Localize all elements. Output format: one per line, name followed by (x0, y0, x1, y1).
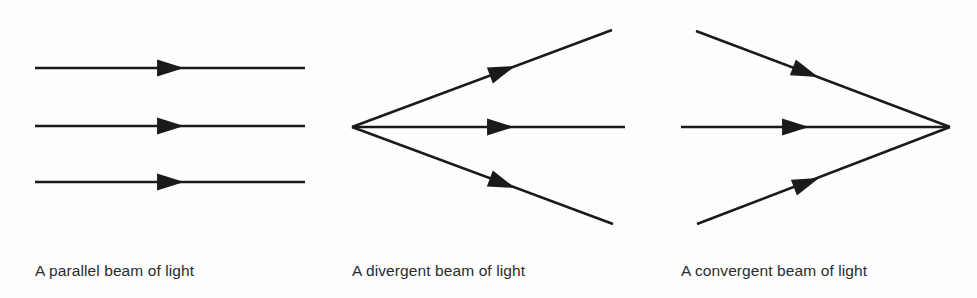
caption-convergent-beam: A convergent beam of light (681, 263, 867, 279)
arrowhead-icon-divergent-1 (487, 119, 514, 136)
ray-line-divergent-0 (352, 30, 612, 127)
ray-line-convergent-0 (696, 31, 950, 127)
caption-parallel-beam: A parallel beam of light (35, 263, 194, 279)
beam-rays-canvas (0, 0, 977, 298)
beam-panel-convergent (681, 31, 950, 224)
arrowhead-icon-convergent-1 (782, 119, 809, 136)
beam-panel-divergent (352, 30, 625, 224)
beam-panel-parallel (35, 60, 305, 191)
caption-divergent-beam: A divergent beam of light (352, 263, 525, 279)
arrowhead-icon-parallel-2 (157, 174, 184, 191)
arrowhead-icon-convergent-2 (791, 178, 819, 196)
arrowhead-icon-convergent-0 (790, 59, 818, 76)
arrowhead-icon-divergent-0 (487, 66, 515, 83)
ray-line-divergent-2 (352, 127, 613, 224)
arrowhead-icon-parallel-1 (157, 118, 184, 135)
ray-line-convergent-2 (697, 127, 950, 224)
arrowhead-icon-parallel-0 (157, 60, 184, 77)
arrowhead-icon-divergent-2 (487, 171, 515, 188)
beam-diagram-figure: A parallel beam of light A divergent bea… (0, 0, 977, 298)
